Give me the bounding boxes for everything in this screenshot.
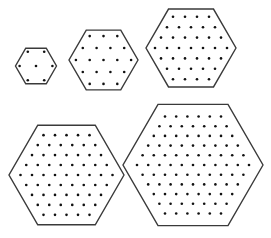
lattice-dot	[43, 51, 46, 54]
lattice-dot	[25, 184, 28, 187]
lattice-dot	[36, 184, 39, 187]
lattice-dot	[220, 135, 223, 138]
lattice-dot	[214, 125, 217, 128]
lattice-dot	[54, 134, 57, 137]
lattice-dot	[184, 78, 187, 81]
lattice-dot	[88, 59, 91, 62]
lattice-dot	[181, 144, 184, 147]
lattice-dot	[175, 193, 178, 196]
lattice-dot	[158, 144, 161, 147]
lattice-dot	[27, 79, 30, 82]
lattice-dot	[102, 83, 105, 86]
lattice-dot	[77, 194, 80, 197]
lattice-dot	[175, 115, 178, 118]
lattice-dot	[123, 71, 126, 74]
lattice-dot	[169, 203, 172, 206]
lattice-dot	[190, 26, 193, 29]
lattice-dot	[111, 174, 114, 177]
lattice-dot	[175, 154, 178, 157]
lattice-dot	[158, 183, 161, 186]
lattice-dot	[237, 144, 240, 147]
lattice-dot	[214, 144, 217, 147]
lattice-dot	[48, 164, 51, 167]
lattice-dot	[186, 193, 189, 196]
lattice-dot	[220, 154, 223, 157]
lattice-dot	[158, 203, 161, 206]
lattice-dot	[31, 194, 34, 197]
lattice-dot	[169, 125, 172, 128]
lattice-dot	[116, 83, 119, 86]
lattice-dot	[153, 154, 156, 157]
lattice-dot	[54, 154, 57, 157]
lattice-dot	[141, 154, 144, 157]
lattice-dot	[209, 212, 212, 215]
lattice-dot	[208, 16, 211, 19]
lattice-dot	[82, 47, 85, 50]
lattice-dot	[214, 164, 217, 167]
lattice-dot	[178, 26, 181, 29]
lattice-dot	[65, 174, 68, 177]
lattice-dot	[27, 51, 30, 54]
lattice-dot	[94, 164, 97, 167]
lattice-dot	[88, 134, 91, 137]
lattice-dot	[88, 174, 91, 177]
lattice-dot	[225, 203, 228, 206]
lattice-dot	[71, 184, 74, 187]
lattice-dot	[196, 16, 199, 19]
lattice-dot	[214, 183, 217, 186]
lattice-dot	[178, 67, 181, 70]
lattice-dot	[208, 78, 211, 81]
lattice-dot	[175, 173, 178, 176]
lattice-dot	[42, 134, 45, 137]
lattice-dot	[54, 214, 57, 217]
lattice-dot	[105, 184, 108, 187]
lattice-dot	[94, 144, 97, 147]
lattice-dot	[197, 135, 200, 138]
lattice-dot	[192, 203, 195, 206]
lattice-dot	[88, 35, 91, 38]
lattice-dot	[197, 173, 200, 176]
lattice-dot	[158, 164, 161, 167]
lattice-dot	[209, 193, 212, 196]
lattice-dot	[192, 164, 195, 167]
lattice-dot	[158, 125, 161, 128]
lattice-dot	[197, 212, 200, 215]
lattice-dot	[160, 36, 163, 39]
lattice-dot	[231, 154, 234, 157]
lattice-dot	[175, 135, 178, 138]
lattice-dot	[190, 67, 193, 70]
lattice-dot	[116, 35, 119, 38]
lattice-dot	[202, 26, 205, 29]
lattice-dot	[169, 164, 172, 167]
lattice-dot	[186, 135, 189, 138]
lattice-dot	[51, 65, 54, 68]
lattice-dot	[25, 164, 28, 167]
lattice-dot	[130, 59, 133, 62]
lattice-dot	[102, 35, 105, 38]
lattice-dot	[175, 212, 178, 215]
lattice-dot	[209, 173, 212, 176]
lattice-dot	[203, 125, 206, 128]
lattice-dot	[197, 115, 200, 118]
lattice-dot	[123, 47, 126, 50]
lattice-dot	[153, 135, 156, 138]
lattice-dot	[214, 47, 217, 50]
lattice-dot	[59, 184, 62, 187]
lattice-dot	[208, 57, 211, 60]
lattice-dot	[197, 154, 200, 157]
lattice-dot	[71, 204, 74, 207]
lattice-dot	[71, 144, 74, 147]
lattice-dot	[105, 164, 108, 167]
lattice-dot	[166, 26, 169, 29]
lattice-dot	[88, 154, 91, 157]
lattice-dot	[226, 47, 229, 50]
lattice-dot	[184, 36, 187, 39]
lattice-dot	[65, 154, 68, 157]
lattice-dot	[77, 174, 80, 177]
lattice-dot	[88, 214, 91, 217]
lattice-dot	[237, 183, 240, 186]
lattice-dot	[231, 173, 234, 176]
lattice-dot	[36, 144, 39, 147]
lattice-dot	[65, 214, 68, 217]
lattice-dot	[225, 144, 228, 147]
